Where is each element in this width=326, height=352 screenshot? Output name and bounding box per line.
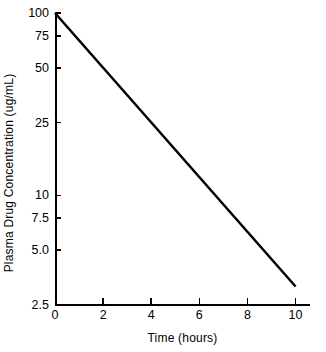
x-tick-label-8: 8 xyxy=(235,309,259,321)
y-tick-label-100: 100 xyxy=(5,7,49,19)
y-tick-label-75: 75 xyxy=(5,30,49,42)
data-line-svg xyxy=(55,13,310,305)
data-series-line xyxy=(55,13,296,286)
semilog-concentration-time-chart: Plasma Drug Concentration (ug/mL) 2.55.0… xyxy=(0,0,326,352)
y-tick-label-10: 10 xyxy=(5,189,49,201)
x-tick-label-10: 10 xyxy=(284,309,308,321)
y-tick-label-7.5: 7.5 xyxy=(5,212,49,224)
y-tick-label-5.0: 5.0 xyxy=(5,244,49,256)
plot-area xyxy=(55,13,310,305)
x-tick-label-2: 2 xyxy=(91,309,115,321)
x-tick-label-4: 4 xyxy=(139,309,163,321)
y-tick-label-50: 50 xyxy=(5,62,49,74)
x-tick-label-6: 6 xyxy=(187,309,211,321)
y-tick-label-25: 25 xyxy=(5,117,49,129)
x-tick-label-0: 0 xyxy=(43,309,67,321)
x-axis-title: Time (hours) xyxy=(55,331,310,345)
